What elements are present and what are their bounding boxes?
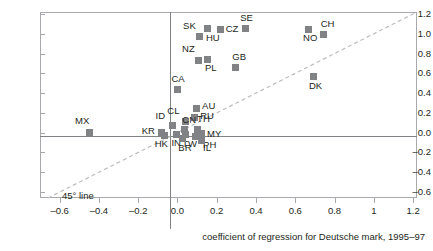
x-tick-label: –0.6 <box>40 205 80 216</box>
data-point-label: MY <box>207 129 221 139</box>
x-tick-mark <box>177 198 178 203</box>
x-tick-label: 1.2 <box>393 205 433 216</box>
data-point-marker <box>174 86 181 93</box>
data-point-marker <box>320 31 327 38</box>
data-point-label: CN <box>182 115 196 125</box>
diagonal-line-label: 45° line <box>62 190 94 201</box>
data-point-label: DK <box>309 81 322 91</box>
data-point-label: IL <box>203 143 211 153</box>
data-point-marker <box>169 122 176 129</box>
data-point-marker <box>242 25 249 32</box>
x-tick-mark <box>295 198 296 203</box>
x-tick-mark <box>217 198 218 203</box>
x-tick-label: 1 <box>354 205 394 216</box>
data-point-label: CA <box>171 74 184 84</box>
data-point-label: SE <box>240 13 253 23</box>
data-point-label: NZ <box>182 44 195 54</box>
x-tick-mark <box>256 198 257 203</box>
x-tick-label: –0.2 <box>118 205 158 216</box>
x-tick-mark <box>60 198 61 203</box>
data-point-label: SK <box>183 21 196 31</box>
data-point-marker <box>196 33 203 40</box>
x-tick-mark <box>413 198 414 203</box>
data-point-label: PL <box>205 63 217 73</box>
data-point-marker <box>193 105 200 112</box>
data-point-label: CL <box>167 106 179 116</box>
diagonal-45-line <box>40 12 417 198</box>
data-point-label: CZ <box>226 24 239 34</box>
x-tick-label: 0.4 <box>236 205 276 216</box>
x-tick-label: –0.4 <box>79 205 119 216</box>
data-point-marker <box>217 26 224 33</box>
data-point-label: HK <box>155 139 168 149</box>
x-tick-mark <box>138 198 139 203</box>
x-tick-mark <box>99 198 100 203</box>
x-tick-label: 0.2 <box>197 205 237 216</box>
x-tick-mark <box>335 198 336 203</box>
data-point-label: CH <box>321 19 335 29</box>
data-point-label: GB <box>232 52 246 62</box>
data-point-label: HU <box>206 33 220 43</box>
data-point-marker <box>86 129 93 136</box>
data-point-label: KR <box>142 126 155 136</box>
data-point-label: MX <box>75 116 89 126</box>
data-point-label: BR <box>178 143 191 153</box>
data-point-label: ID <box>156 111 166 121</box>
data-point-label: NO <box>303 33 317 43</box>
x-tick-label: 0.0 <box>157 205 197 216</box>
x-tick-label: 0.8 <box>315 205 355 216</box>
x-tick-mark <box>374 198 375 203</box>
x-tick-label: 0.6 <box>275 205 315 216</box>
data-point-marker <box>232 64 239 71</box>
data-point-label: TH <box>197 114 210 124</box>
x-axis-title: coefficient of regression for Deutsche m… <box>0 231 425 243</box>
data-point-marker <box>195 57 202 64</box>
